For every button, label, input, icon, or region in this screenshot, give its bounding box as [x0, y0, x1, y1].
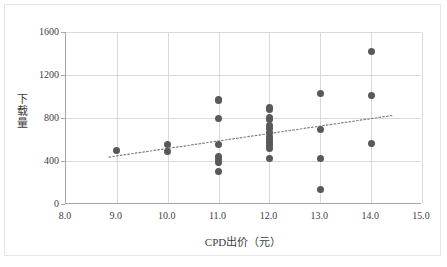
y-tick-label: 1600 — [13, 26, 59, 37]
scatter-point — [317, 126, 324, 133]
scatter-point — [266, 106, 273, 113]
gridline-vertical — [117, 32, 118, 203]
x-tick-label: 13.0 — [299, 210, 339, 221]
y-axis-title: 下载量 — [15, 93, 29, 129]
y-axis-title-char: 下 — [15, 93, 29, 105]
x-tick-label: 14.0 — [350, 210, 390, 221]
gridline-vertical — [168, 32, 169, 203]
scatter-point — [266, 155, 273, 162]
gridline-vertical — [320, 32, 321, 203]
x-tick-label: 11.0 — [198, 210, 238, 221]
y-tick-label: 1200 — [13, 69, 59, 80]
scatter-point — [164, 148, 171, 155]
scatter-point — [215, 141, 222, 148]
scatter-point — [215, 168, 222, 175]
y-tick-mark — [61, 204, 65, 205]
x-tick-label: 9.0 — [96, 210, 136, 221]
chart-frame: 下载量 040080012001600 8.09.010.011.012.013… — [4, 4, 441, 256]
gridline-horizontal — [66, 118, 421, 119]
scatter-point — [368, 92, 375, 99]
scatter-point — [215, 97, 222, 104]
gridline-vertical — [371, 32, 372, 203]
x-tick-label: 8.0 — [45, 210, 85, 221]
x-tick-label: 10.0 — [147, 210, 187, 221]
y-tick-label: 400 — [13, 155, 59, 166]
scatter-point — [113, 147, 120, 154]
scatter-point — [215, 115, 222, 122]
scatter-point — [215, 159, 222, 166]
scatter-point — [368, 48, 375, 55]
x-tick-label: 15.0 — [401, 210, 441, 221]
gridline-horizontal — [66, 75, 421, 76]
scatter-point — [368, 140, 375, 147]
scatter-point — [164, 141, 171, 148]
gridline-horizontal — [66, 32, 421, 33]
scatter-point — [317, 90, 324, 97]
scatter-point — [266, 145, 273, 152]
y-tick-label: 800 — [13, 112, 59, 123]
plot-area — [65, 32, 421, 204]
x-tick-label: 12.0 — [248, 210, 288, 221]
y-tick-label: 0 — [13, 198, 59, 209]
gridline-vertical — [422, 32, 423, 203]
x-axis-title: CPD出价（元） — [65, 233, 421, 249]
gridline-horizontal — [66, 161, 421, 162]
scatter-point — [317, 186, 324, 193]
